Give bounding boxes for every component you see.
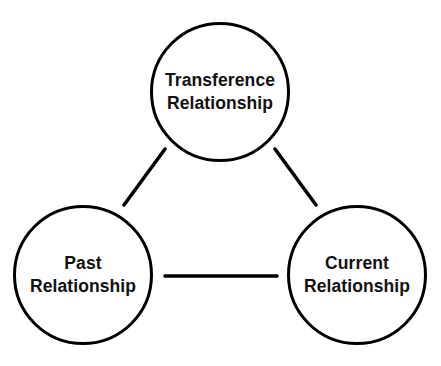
relationship-triangle-diagram: Transference Relationship Past Relations… [0,0,441,366]
node-label-line1: Transference [165,69,275,92]
node-transference-relationship: Transference Relationship [150,22,290,162]
node-label-line2: Relationship [165,92,275,115]
node-label: Transference Relationship [165,69,275,115]
edge-transference-current [275,149,316,205]
edge-transference-past [124,149,165,205]
node-label-line2: Relationship [30,275,136,298]
node-label-line1: Current [304,252,410,275]
node-label: Current Relationship [304,252,410,298]
node-label-line1: Past [30,252,136,275]
node-label-line2: Relationship [304,275,410,298]
node-label: Past Relationship [30,252,136,298]
node-past-relationship: Past Relationship [13,205,153,345]
node-current-relationship: Current Relationship [287,205,427,345]
